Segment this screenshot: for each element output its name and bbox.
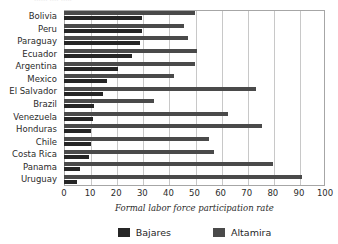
bar-bajares [64,167,80,171]
x-axis-tick-label: 10 [85,188,96,198]
bar-bajares [64,155,89,159]
y-axis-label: Chile [36,136,57,149]
bar-bajares [64,41,140,45]
legend-swatch-icon [118,228,130,237]
bar-bajares [64,79,107,83]
bar-bajares [64,54,132,58]
bar-altamira [64,74,174,78]
bar-altamira [64,49,197,53]
y-axis-label: Honduras [16,123,57,136]
bar-group [64,161,325,174]
x-axis-tick-label: 70 [241,188,252,198]
cut-off-title-remnant: ...... .... ..... [34,0,184,3]
bar-altamira [64,24,184,28]
bar-altamira [64,62,195,66]
bar-altamira [64,99,154,103]
x-axis-tick-label: 0 [61,188,66,198]
legend-swatch-icon [213,228,225,237]
bar-group [64,173,325,186]
bar-bajares [64,29,142,33]
bar-bajares [64,129,91,133]
y-axis-label: Costa Rica [12,148,57,161]
y-axis-label: Peru [38,23,57,36]
bar-group [64,111,325,124]
bar-group [64,148,325,161]
y-axis-label: Brazil [33,98,57,111]
bar-altamira [64,36,188,40]
bar-bajares [64,16,142,20]
y-axis-label: Ecuador [22,48,57,61]
bar-group [64,60,325,73]
x-axis-tick-label: 40 [163,188,174,198]
bar-altamira [64,11,195,15]
legend-label: Altamira [231,227,271,238]
bar-group [64,35,325,48]
bar-bajares [64,67,118,71]
bar-group [64,98,325,111]
chart-legend: BajaresAltamira [64,224,325,240]
y-axis-label: Uruguay [21,173,57,186]
bar-chart: ...... .... ..... BoliviaPeruParaguayEcu… [0,0,338,244]
y-axis-label: Mexico [27,73,57,86]
x-axis-tick-label: 100 [317,188,333,198]
bar-group [64,136,325,149]
bar-bajares [64,92,103,96]
y-axis-label: El Salvador [9,85,57,98]
bar-altamira [64,175,302,179]
bar-altamira [64,124,262,128]
legend-item[interactable]: Altamira [213,227,271,238]
bar-group [64,85,325,98]
legend-item[interactable]: Bajares [118,227,171,238]
bar-bajares [64,104,94,108]
x-axis-tick-labels: 0102030405060708090100 [64,188,325,200]
bar-bajares [64,180,77,184]
x-axis-tick-label: 30 [137,188,148,198]
x-axis-tick-label: 60 [215,188,226,198]
x-axis-title: Formal labor force participation rate [64,203,325,213]
x-axis-tick-label: 80 [267,188,278,198]
bar-group [64,23,325,36]
y-axis-label: Venezuela [13,111,57,124]
x-axis-tick-label: 90 [293,188,304,198]
y-axis-labels: BoliviaPeruParaguayEcuadorArgentinaMexic… [0,10,61,186]
bar-group [64,73,325,86]
x-axis-tick-label: 20 [111,188,122,198]
y-axis-label: Bolivia [29,10,57,23]
y-axis-label: Argentina [16,60,57,73]
bar-bajares [64,142,91,146]
bar-altamira [64,150,214,154]
bar-group [64,123,325,136]
bar-rows [64,10,325,186]
bar-group [64,48,325,61]
bar-group [64,10,325,23]
bar-altamira [64,162,273,166]
bar-altamira [64,137,209,141]
legend-label: Bajares [136,227,171,238]
x-axis-tick-label: 50 [189,188,200,198]
y-axis-label: Panama [23,161,57,174]
bar-altamira [64,87,256,91]
bar-altamira [64,112,228,116]
bar-bajares [64,117,93,121]
y-axis-label: Paraguay [17,35,57,48]
